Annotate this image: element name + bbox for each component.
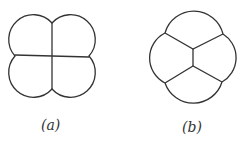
figure-b-label: (b) xyxy=(182,119,202,135)
diagram-canvas xyxy=(0,0,238,144)
figure-a-label: (a) xyxy=(41,117,60,133)
figure-a xyxy=(9,15,96,98)
figure-b-upper-walls xyxy=(165,33,223,49)
figure-b xyxy=(150,11,236,103)
figure-b-lower-walls xyxy=(165,66,222,83)
